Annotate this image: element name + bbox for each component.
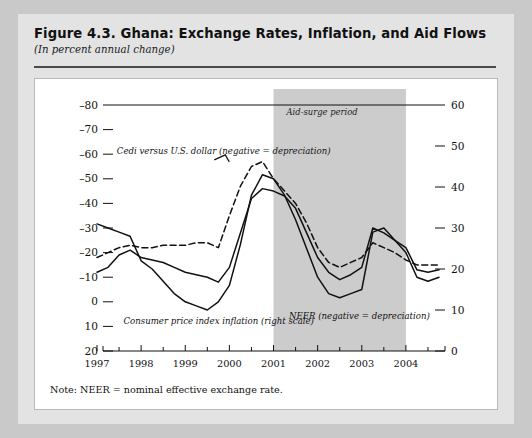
right-axis-tick-label: 20	[451, 263, 465, 275]
x-axis-tick-label: 1998	[129, 358, 154, 369]
left-axis-tick-label: –30	[79, 222, 98, 234]
figure-subtitle: (In percent annual change)	[34, 44, 496, 55]
left-axis-tick-label: –60	[79, 148, 98, 160]
left-axis-tick-label: 10	[85, 320, 99, 332]
x-axis-tick-label: 2003	[349, 358, 374, 369]
x-axis-tick-label: 2000	[217, 358, 242, 369]
plot-card: –80–70–60–50–40–30–20–100102001020304050…	[34, 78, 498, 410]
line-chart: –80–70–60–50–40–30–20–100102001020304050…	[35, 79, 495, 407]
left-axis-tick-label: –70	[79, 123, 98, 135]
right-axis-tick-label: 40	[451, 181, 465, 193]
right-axis-tick-label: 10	[451, 304, 465, 316]
chart-annotation: Aid-surge period	[286, 107, 359, 117]
left-axis-tick-label: 20	[85, 345, 99, 357]
left-axis-tick-label: –50	[79, 172, 98, 184]
left-axis-tick-label: –80	[79, 99, 98, 111]
x-axis-tick-label: 2004	[393, 358, 418, 369]
chart-annotation: Consumer price index inflation (right sc…	[123, 316, 314, 326]
x-axis-tick-label: 1999	[173, 358, 198, 369]
x-axis-tick-label: 2001	[261, 358, 286, 369]
figure-page: Figure 4.3. Ghana: Exchange Rates, Infla…	[0, 0, 532, 438]
title-divider	[34, 66, 496, 68]
figure-note: Note: NEER = nominal effective exchange …	[50, 384, 283, 395]
x-axis-tick-label: 2002	[305, 358, 330, 369]
chart-annotation: Cedi versus U.S. dollar (negative = depr…	[117, 146, 331, 156]
right-axis-tick-label: 50	[451, 140, 465, 152]
x-axis-tick-label: 1997	[85, 358, 110, 369]
chart-annotation: NEER (negative = depreciation)	[288, 311, 430, 321]
figure-panel: Figure 4.3. Ghana: Exchange Rates, Infla…	[18, 14, 514, 424]
left-axis-tick-label: –20	[79, 246, 98, 258]
left-axis-tick-label: 0	[91, 295, 98, 307]
figure-title: Figure 4.3. Ghana: Exchange Rates, Infla…	[34, 26, 496, 41]
right-axis-tick-label: 60	[451, 99, 465, 111]
left-axis-tick-label: –40	[79, 197, 98, 209]
figure-heading: Figure 4.3. Ghana: Exchange Rates, Infla…	[34, 26, 496, 55]
right-axis-tick-label: 0	[451, 345, 458, 357]
right-axis-tick-label: 30	[451, 222, 465, 234]
left-axis-tick-label: –10	[79, 271, 98, 283]
